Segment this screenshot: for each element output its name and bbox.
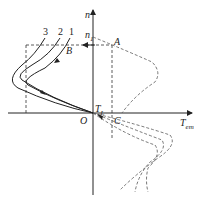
solid-curves <box>12 38 93 113</box>
curve-1-label: 1 <box>69 27 74 37</box>
x-axis-label: Tem <box>180 118 194 131</box>
diagram-canvas <box>0 0 201 202</box>
point-a-label: A <box>114 37 120 47</box>
n1-label: n1 <box>85 30 94 43</box>
curve-1 <box>26 38 93 113</box>
curve-3 <box>12 38 93 113</box>
tl-label: TL <box>95 104 104 117</box>
guide-lines <box>26 45 112 138</box>
point-b-label: B <box>66 46 72 56</box>
torque-speed-diagram: n Tem O A B C n1 TL 3 2 1 <box>0 0 201 202</box>
curve-2-label: 2 <box>58 27 63 37</box>
y-axis-label: n <box>85 10 90 20</box>
dashed-curve-upper <box>93 37 158 113</box>
origin-label: O <box>80 116 87 126</box>
point-c-label: C <box>114 116 121 126</box>
curve-3-label: 3 <box>43 27 48 37</box>
dashed-curves-lower <box>93 113 172 192</box>
